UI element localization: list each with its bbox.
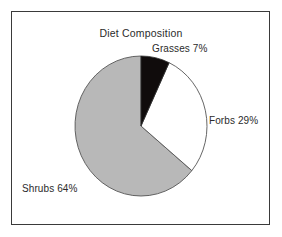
chart-figure: Diet Composition Grasses 7% Forbs 29% Sh… [0, 0, 282, 237]
pie-label-forbs: Forbs 29% [209, 115, 258, 126]
pie-label-grasses: Grasses 7% [152, 43, 207, 54]
pie-label-shrubs: Shrubs 64% [22, 183, 77, 194]
